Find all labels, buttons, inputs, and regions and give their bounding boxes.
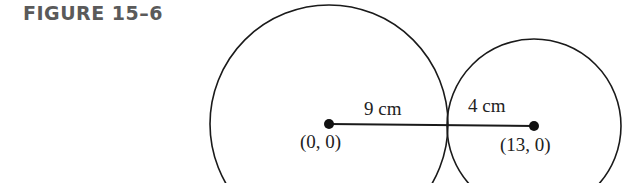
- small-center-point: [529, 121, 539, 131]
- large-center-label: (0, 0): [300, 131, 341, 153]
- small-center-label: (13, 0): [500, 134, 551, 156]
- large-radius-label: 9 cm: [364, 98, 402, 119]
- large-center-point: [324, 119, 334, 129]
- tangent-circles-diagram: 9 cm (0, 0) 4 cm (13, 0): [0, 0, 643, 183]
- center-line: [329, 124, 534, 126]
- large-circle: [210, 5, 448, 183]
- small-radius-label: 4 cm: [468, 95, 506, 116]
